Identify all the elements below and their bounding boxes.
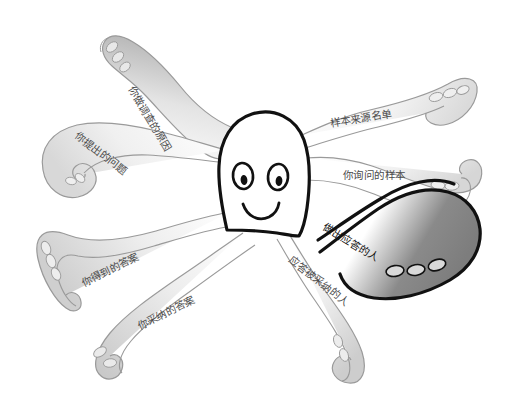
octopus-diagram-canvas: 你做调查的原因 你提出的问题 样本来源名单 你询问的样本 做出应答的人 应答被采… bbox=[0, 0, 522, 411]
octopus-head[interactable] bbox=[219, 112, 309, 236]
octopus-illustration bbox=[0, 0, 522, 411]
label-sample-you-queried[interactable]: 你询问的样本 bbox=[343, 170, 405, 181]
